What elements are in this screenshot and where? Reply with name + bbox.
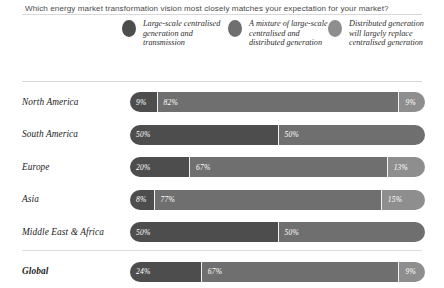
bar-segment-value: 9%: [399, 98, 415, 107]
page-title: Which energy market transformation visio…: [25, 3, 425, 14]
bar-segment: 9%: [130, 92, 157, 112]
bar-segment: 20%: [130, 157, 189, 177]
row-label: Global: [22, 258, 126, 286]
bar-segment-value: 77%: [155, 195, 175, 204]
bar-segment: 50%: [278, 222, 426, 242]
legend-item-large-scale-centralised: Large-scale centralised generation and t…: [122, 19, 222, 48]
bar-segment: 24%: [130, 262, 201, 282]
bar-segment-value: 50%: [279, 228, 299, 237]
bar-segment-value: 50%: [279, 130, 299, 139]
divider-top: [22, 14, 422, 15]
legend-label: Distributed generation will largely repl…: [349, 19, 432, 48]
row-label: North America: [22, 88, 126, 116]
stacked-bar: 9%82%9%: [130, 92, 425, 112]
chart-row: Global24%67%9%: [0, 258, 444, 286]
stacked-bar: 50%50%: [130, 125, 425, 145]
row-label: South America: [22, 121, 126, 149]
bar-segment-value: 67%: [202, 267, 222, 276]
bar-segment: 50%: [130, 222, 278, 242]
bar-segment: 77%: [154, 190, 381, 210]
bar-segment: 8%: [130, 190, 154, 210]
stacked-bar: 24%67%9%: [130, 262, 425, 282]
stacked-bar: 50%50%: [130, 222, 425, 242]
bar-segment-value: 9%: [130, 98, 146, 107]
bar-segment: 13%: [387, 157, 425, 177]
bar-segment: 50%: [130, 125, 278, 145]
row-label: Europe: [22, 153, 126, 181]
legend: Large-scale centralised generation and t…: [122, 19, 432, 77]
legend-dot-light-icon: [328, 20, 342, 37]
stacked-bar: 20%67%13%: [130, 157, 425, 177]
bar-segment: 67%: [189, 157, 387, 177]
bar-segment-value: 50%: [130, 228, 150, 237]
bar-segment-value: 24%: [130, 267, 150, 276]
bar-segment-value: 8%: [130, 195, 146, 204]
chart-row: Asia8%77%15%: [0, 186, 444, 214]
bar-segment: 82%: [157, 92, 399, 112]
chart-rows: North America9%82%9%South America50%50%E…: [0, 88, 444, 288]
bar-segment: 9%: [398, 262, 425, 282]
bar-segment: 9%: [398, 92, 425, 112]
chart-row: South America50%50%: [0, 121, 444, 149]
bar-segment: 50%: [278, 125, 426, 145]
legend-item-mixture: A mixture of large-scale centralised and…: [228, 19, 328, 48]
bar-segment-value: 13%: [388, 163, 408, 172]
legend-dot-dark-icon: [122, 20, 136, 37]
legend-label: A mixture of large-scale centralised and…: [249, 19, 328, 48]
divider-global: [22, 250, 422, 251]
bar-segment-value: 20%: [130, 163, 150, 172]
chart-row: North America9%82%9%: [0, 88, 444, 116]
chart-row: Middle East & Africa50%50%: [0, 218, 444, 246]
row-label: Asia: [22, 186, 126, 214]
bar-segment-value: 82%: [158, 98, 178, 107]
legend-label: Large-scale centralised generation and t…: [143, 19, 222, 48]
chart-page: Which energy market transformation visio…: [0, 0, 444, 288]
legend-dot-medium-icon: [228, 20, 242, 37]
chart-row: Europe20%67%13%: [0, 153, 444, 181]
bar-segment-value: 50%: [130, 130, 150, 139]
bar-segment: 15%: [381, 190, 425, 210]
bar-segment-value: 9%: [399, 267, 415, 276]
legend-item-distributed: Distributed generation will largely repl…: [328, 19, 432, 48]
divider-legend-bottom: [22, 81, 422, 82]
stacked-bar: 8%77%15%: [130, 190, 425, 210]
bar-segment-value: 67%: [190, 163, 210, 172]
bar-segment-value: 15%: [382, 195, 402, 204]
bar-segment: 67%: [201, 262, 399, 282]
row-label: Middle East & Africa: [22, 218, 126, 246]
